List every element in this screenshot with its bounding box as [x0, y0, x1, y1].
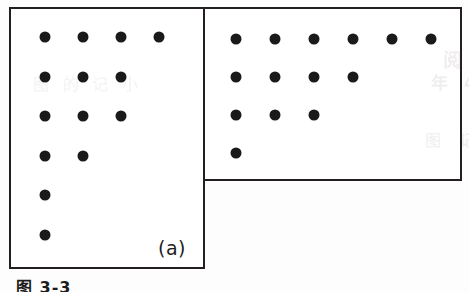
dot [231, 148, 242, 159]
dot [78, 32, 89, 43]
dot [116, 32, 127, 43]
dot [231, 72, 242, 83]
dot [270, 110, 281, 121]
dot [40, 190, 51, 201]
dot [387, 34, 398, 45]
panel-a: 图 的 记 小 (a) [9, 7, 205, 269]
figure-container: 图 的 记 小 (a) 阅 图 到 广 惯 年 4 记 记 对 图 记 的 小 … [0, 0, 469, 292]
watermark-text: 阅 图 到 广 惯 [443, 45, 469, 72]
panel-b: 阅 图 到 广 惯 年 4 记 记 对 图 记 的 小 的 (b) [203, 7, 462, 181]
dot [116, 111, 127, 122]
dot [426, 34, 437, 45]
figure-caption-text: 图 3-3 [16, 276, 71, 292]
dot [78, 71, 89, 82]
dot [154, 32, 165, 43]
watermark-text: 图 记 的 小 的 [425, 127, 469, 151]
dot [40, 32, 51, 43]
figure-caption: 图 3-3 [0, 276, 469, 292]
dot [40, 71, 51, 82]
dot [78, 111, 89, 122]
dot [348, 72, 359, 83]
dot [116, 71, 127, 82]
dot [231, 110, 242, 121]
dot [309, 34, 320, 45]
watermark-text: 年 4 记 记 对 [431, 69, 469, 94]
dot [270, 34, 281, 45]
dot [348, 34, 359, 45]
dot [309, 72, 320, 83]
dot [270, 72, 281, 83]
dot [40, 150, 51, 161]
dot [40, 229, 51, 240]
panel-a-label: (a) [158, 237, 186, 259]
dot [78, 150, 89, 161]
dot [309, 110, 320, 121]
dot [40, 111, 51, 122]
dot [231, 34, 242, 45]
